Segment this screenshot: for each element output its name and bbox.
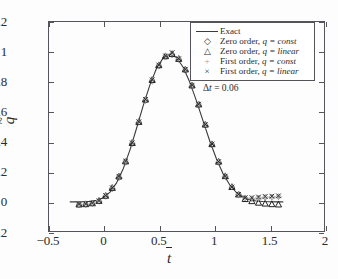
legend-item: ×First order, q = linear xyxy=(194,67,310,77)
tilde-accent: ~ xyxy=(0,117,8,125)
y-tick-label: 1 xyxy=(0,45,7,58)
legend-symbol-marker: △ xyxy=(194,47,220,56)
x-tick-mark xyxy=(326,22,327,27)
legend-label: Zero order, q = linear xyxy=(220,47,299,56)
legend-label: Exact xyxy=(220,27,241,36)
x-tick-label: 0 xyxy=(80,234,126,247)
legend-label-value: = linear xyxy=(267,46,299,56)
legend-item: ◇Zero order, q = const xyxy=(194,36,310,46)
legend-line-swatch xyxy=(196,31,218,32)
y-tick-label: 0 xyxy=(0,195,7,208)
legend-symbol-line xyxy=(194,27,220,36)
y-tick-label: 1.2 xyxy=(0,15,7,28)
x-tick-label: 0.5 xyxy=(136,234,182,247)
x-tick-label: 1.5 xyxy=(247,234,293,247)
x-tick-mark xyxy=(326,226,327,231)
legend-symbol-marker: × xyxy=(194,67,220,76)
legend-label-value: = linear xyxy=(266,66,298,76)
x-tick-label: 1 xyxy=(191,234,237,247)
x-tick-label: −0.5 xyxy=(25,234,71,247)
legend-item: △Zero order, q = linear xyxy=(194,46,310,56)
legend-label-value: = const xyxy=(266,56,296,66)
legend-label: First order, q = linear xyxy=(220,67,298,76)
overbar-accent xyxy=(166,247,172,248)
x-tick-label: 2 xyxy=(302,234,338,247)
delta-t-annotation: Δt = 0.06 xyxy=(203,83,238,93)
y-axis-title: ~q xyxy=(1,117,18,125)
legend-label: Zero order, q = const xyxy=(220,37,296,46)
y-tick-label: 0.8 xyxy=(0,75,7,88)
x-axis-title-text: t xyxy=(167,250,171,266)
legend-label: First order, q = const xyxy=(220,57,296,66)
x-axis-title: t xyxy=(0,250,338,267)
figure-canvas: 1.210.80.60.40.20−0.2−0.500.511.52 ~q t … xyxy=(0,0,338,279)
y-tick-label: 0.4 xyxy=(0,135,7,148)
y-tick-label: 0.2 xyxy=(0,165,7,178)
legend-symbol-marker: ◇ xyxy=(194,37,220,46)
legend-symbol-marker: + xyxy=(194,57,220,66)
legend-box: Exact◇Zero order, q = const△Zero order, … xyxy=(190,22,315,81)
legend-item: +First order, q = const xyxy=(194,57,310,67)
legend-item: Exact xyxy=(194,26,310,36)
delta-t-value: = 0.06 xyxy=(212,83,239,93)
legend-label-value: = const xyxy=(267,36,297,46)
y-tick-label: −0.2 xyxy=(0,226,7,239)
